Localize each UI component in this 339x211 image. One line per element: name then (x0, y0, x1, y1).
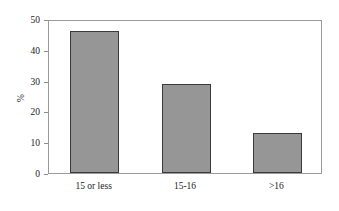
y-tick-label-50: 50 (16, 15, 40, 25)
y-tick-label-30: 30 (16, 77, 40, 87)
x-tick-label-2: >16 (231, 180, 322, 192)
y-tick-label-40: 40 (16, 46, 40, 56)
x-tick-label-0: 15 or less (48, 180, 139, 192)
y-tick-label-20: 20 (16, 107, 40, 117)
bar-chart-figure: % 50 40 30 20 10 0 15 or less 15-16 >16 (0, 0, 339, 211)
bar-15-16 (162, 84, 211, 173)
bar-series (49, 21, 321, 173)
bar-15-or-less (70, 31, 119, 173)
bar-gt-16 (253, 133, 302, 173)
x-tick-label-1: 15-16 (139, 180, 230, 192)
y-tick-mark-0 (44, 174, 48, 175)
y-tick-label-10: 10 (16, 138, 40, 148)
y-tick-label-0: 0 (16, 169, 40, 179)
plot-area (48, 20, 322, 174)
x-axis-ticks: 15 or less 15-16 >16 (48, 180, 322, 200)
y-axis-ticks: 50 40 30 20 10 0 (0, 0, 46, 211)
